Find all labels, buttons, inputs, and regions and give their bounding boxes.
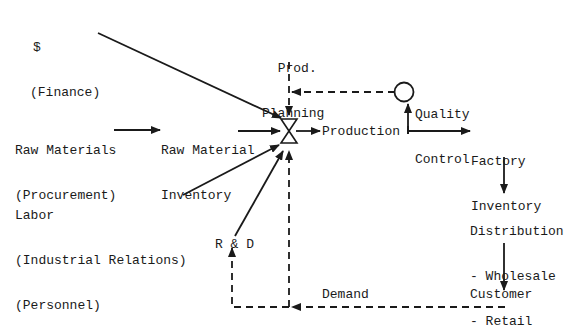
node-labor: Labor (Industrial Relations) (Personnel) — [15, 178, 187, 329]
node-customer: Customer — [470, 287, 532, 302]
quality-control-line2: Control — [415, 152, 470, 167]
factory-inventory-line1: Factory — [471, 154, 541, 169]
labor-personnel: (Personnel) — [15, 298, 187, 313]
node-distribution: Distribution - Wholesale - Retail — [470, 194, 564, 329]
node-production: Production — [322, 124, 400, 139]
node-prod-planning: Prod. Planning — [262, 31, 324, 151]
node-rnd: R & D — [215, 237, 254, 252]
dashed-demand-to-rnd — [232, 248, 289, 307]
prod-planning-line1: Prod. — [262, 61, 324, 76]
arrow-finance-to-valve — [98, 33, 281, 118]
labor-industrial-relations: (Industrial Relations) — [15, 253, 187, 268]
node-finance: $ (Finance) — [30, 10, 100, 130]
quality-control-line1: Quality — [415, 107, 470, 122]
raw-materials-label: Raw Materials — [15, 143, 116, 158]
raw-material-inventory-line1: Raw Material — [161, 143, 255, 158]
node-quality-control: Quality Control — [415, 77, 470, 197]
finance-label: (Finance) — [30, 85, 100, 100]
quality-control-circle-icon — [395, 83, 414, 102]
finance-symbol: $ — [30, 40, 100, 55]
distribution-retail: - Retail — [470, 314, 564, 329]
prod-planning-line2: Planning — [262, 106, 324, 121]
labor-label: Labor — [15, 208, 187, 223]
distribution-wholesale: - Wholesale — [470, 269, 564, 284]
distribution-label: Distribution — [470, 224, 564, 239]
label-demand: Demand — [322, 287, 369, 302]
